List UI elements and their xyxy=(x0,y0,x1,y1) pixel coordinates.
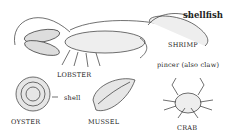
lobster-icon xyxy=(23,27,147,67)
crab-label: CRAB xyxy=(177,124,197,132)
crab-icon xyxy=(163,78,213,118)
mussel-icon xyxy=(93,79,135,111)
shellfish-illustration: shellfish SHRIMP pincer (also claw) LOBS… xyxy=(0,0,227,136)
shell-label: shell xyxy=(64,94,81,102)
oyster-icon xyxy=(16,77,58,111)
mussel-label: MUSSEL xyxy=(88,118,119,126)
shrimp-label: SHRIMP xyxy=(168,41,198,49)
lobster-label: LOBSTER xyxy=(57,71,91,79)
pincer-label: pincer (also claw) xyxy=(157,61,219,69)
oyster-label: OYSTER xyxy=(11,118,40,126)
page-title: shellfish xyxy=(183,10,223,20)
